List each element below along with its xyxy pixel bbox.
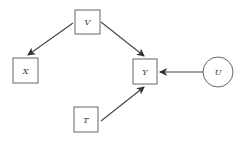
edge-v-y	[101, 22, 144, 56]
node-u: U	[203, 57, 233, 87]
node-t-label: T	[83, 116, 89, 125]
node-x: X	[13, 58, 38, 83]
causal-diagram: V X Y T U	[0, 0, 248, 141]
edge-t-y	[101, 87, 144, 121]
node-y-label: Y	[142, 68, 148, 77]
edge-v-x	[28, 23, 73, 55]
node-t: T	[74, 107, 98, 132]
node-v: V	[75, 10, 100, 34]
node-x-label: X	[22, 67, 29, 76]
node-y: Y	[133, 59, 157, 84]
node-u-label: U	[215, 68, 222, 77]
